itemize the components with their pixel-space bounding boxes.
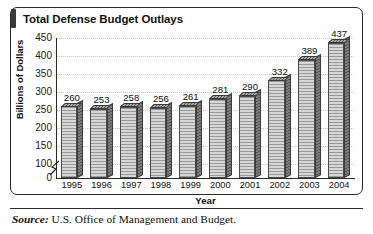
bar-value-label: 389 bbox=[295, 45, 325, 56]
x-tick-label: 2001 bbox=[235, 180, 265, 190]
x-tick-label: 2004 bbox=[324, 180, 354, 190]
y-tick-label: 450 bbox=[35, 33, 52, 43]
bar-front-face bbox=[239, 96, 256, 178]
y-tick-label: 250 bbox=[35, 105, 52, 115]
source-divider bbox=[10, 208, 363, 209]
bar-front-face bbox=[90, 109, 107, 178]
bar-value-label: 290 bbox=[235, 81, 265, 92]
bar-side-face bbox=[196, 100, 202, 178]
axis-break-icon bbox=[48, 160, 66, 178]
bar-value-label: 260 bbox=[57, 92, 87, 103]
x-tick-label: 2003 bbox=[295, 180, 325, 190]
bar-side-face bbox=[226, 93, 232, 178]
bar-value-label: 253 bbox=[87, 94, 117, 105]
bar bbox=[120, 107, 137, 178]
y-tick-label: 350 bbox=[35, 69, 52, 79]
x-tick-label: 1997 bbox=[116, 180, 146, 190]
source-label: Source: bbox=[12, 213, 49, 225]
bar bbox=[179, 106, 196, 178]
y-axis-line bbox=[56, 38, 57, 178]
bar-top-face bbox=[61, 103, 82, 107]
x-axis-title: Year bbox=[57, 195, 354, 206]
bar bbox=[90, 109, 107, 178]
source-note: Source: U.S. Office of Management and Bu… bbox=[12, 213, 236, 225]
x-tick-label: 1995 bbox=[57, 180, 87, 190]
bar-side-face bbox=[255, 89, 261, 178]
source-text: U.S. Office of Management and Budget. bbox=[52, 213, 237, 225]
bar-side-face bbox=[137, 101, 143, 178]
bar-side-face bbox=[107, 103, 113, 178]
x-tick-label: 1999 bbox=[176, 180, 206, 190]
bar bbox=[239, 96, 256, 178]
bar-value-label: 258 bbox=[116, 92, 146, 103]
bar-value-label: 332 bbox=[265, 66, 295, 77]
bar bbox=[150, 108, 167, 178]
chart-figure: Total Defense Budget Outlays 01001502002… bbox=[0, 0, 373, 234]
y-tick-label: 300 bbox=[35, 87, 52, 97]
bar-front-face bbox=[120, 107, 137, 178]
bar-side-face bbox=[166, 102, 172, 178]
bar-side-face bbox=[315, 54, 321, 178]
bar bbox=[298, 60, 315, 178]
bar-side-face bbox=[77, 100, 83, 178]
y-tick-label: 400 bbox=[35, 51, 52, 61]
x-axis-line bbox=[56, 178, 355, 179]
y-tick-label: 200 bbox=[35, 123, 52, 133]
bar-front-face bbox=[150, 108, 167, 178]
gridline bbox=[57, 38, 354, 39]
bar-value-label: 281 bbox=[206, 84, 236, 95]
bar-value-label: 261 bbox=[176, 91, 206, 102]
x-tick-label: 2002 bbox=[265, 180, 295, 190]
x-tick-label: 1998 bbox=[146, 180, 176, 190]
y-axis-title: Billions of Dollars bbox=[14, 15, 25, 145]
bar bbox=[328, 43, 345, 178]
bar bbox=[209, 99, 226, 178]
plot-area bbox=[57, 38, 354, 178]
bar-front-face bbox=[298, 60, 315, 178]
bar-value-label: 437 bbox=[324, 28, 354, 39]
bar-front-face bbox=[179, 106, 196, 178]
bar-front-face bbox=[268, 80, 285, 178]
bar-front-face bbox=[328, 43, 345, 178]
bar-side-face bbox=[285, 74, 291, 178]
bar-front-face bbox=[209, 99, 226, 178]
y-tick-label: 150 bbox=[35, 141, 52, 151]
x-tick-label: 2000 bbox=[206, 180, 236, 190]
y-axis-tick-labels: 0100150200250300350400450 bbox=[0, 0, 52, 234]
bar bbox=[268, 80, 285, 178]
bar-value-label: 256 bbox=[146, 93, 176, 104]
x-tick-label: 1996 bbox=[87, 180, 117, 190]
bar-side-face bbox=[344, 37, 350, 178]
